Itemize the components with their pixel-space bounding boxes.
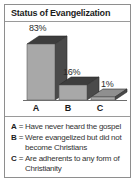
legend-equals-b: = <box>17 133 25 142</box>
legend-text-c: Are adherents to any form of Christianit… <box>25 154 127 174</box>
page-title: Status of Evangelization <box>11 8 110 18</box>
chart-legend: A = Have never heard the gospel B = Were… <box>5 116 131 178</box>
legend-equals-c: = <box>17 154 25 163</box>
chart-title-bar: Status of Evangelization <box>5 5 130 22</box>
axis-tick-b: B <box>61 103 75 113</box>
value-label-a: 83% <box>29 23 46 33</box>
bar-c-front <box>91 97 115 100</box>
value-label-c: 1% <box>101 79 114 89</box>
value-label-b: 16% <box>63 67 80 77</box>
axis-tick-c: C <box>93 103 107 113</box>
bar-a-front <box>27 44 55 100</box>
legend-item-c: C = Are adherents to any form of Christi… <box>11 154 127 174</box>
legend-equals-a: = <box>17 122 25 131</box>
legend-text-b: Were evangelized but did not become Chri… <box>25 133 127 153</box>
legend-item-a: A = Have never heard the gospel <box>11 122 127 132</box>
infographic-card: Status of Evangelization 83% 16% 1% A B … <box>4 4 131 178</box>
legend-text-a: Have never heard the gospel <box>25 122 121 132</box>
axis-tick-a: A <box>29 103 43 113</box>
bar-b-front <box>59 85 87 100</box>
legend-item-b: B = Were evangelized but did not become … <box>11 133 127 153</box>
bar-chart: 83% 16% 1% A B C <box>5 22 131 116</box>
